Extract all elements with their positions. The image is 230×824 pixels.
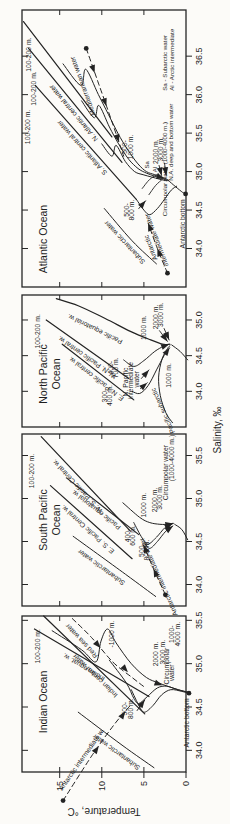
annotation-label: 600 m. [129,525,136,546]
annotation-label: Sa [144,161,150,169]
annotation-label: N.A. deep and bottom water [167,104,174,181]
sal-tick-label: 35.5 [194,124,204,142]
scanned-figure-page: 051015Temperature, °CSalinity, ‰34.034.5… [0,0,230,824]
sal-tick-label: 35.0 [194,163,204,181]
temp-tick-label: 5 [139,781,149,786]
annotation-label: 400 m. [106,385,113,406]
salinity-axis-title: Salinity, ‰ [212,406,223,453]
annotation-label: 800 m. [127,698,134,719]
annotation-label: -1000 m. [108,621,115,648]
temp-tick-label: 0 [181,781,191,786]
sal-tick-label: 35.0 [194,655,204,673]
annotation-label: Al [152,167,158,172]
antarctic-intermediate-origin-dot [61,798,66,803]
annotation-label: 800 m. [128,200,135,221]
antarctic-bottom-dot [187,691,192,696]
panel-title: Ocean [50,358,62,389]
annotation-label: 100-200 m. [28,454,35,488]
panel-title: South Pacific [37,489,49,550]
annotation-label: 3000 m. [157,302,164,327]
sal-tick-label: 34.0 [194,383,204,401]
sal-tick-label: 35.0 [194,490,204,508]
annotation-label: 100-200 m. [34,629,41,663]
sal-tick-label: 35.0 [194,311,204,329]
panel-title: North Pacific [37,344,49,404]
annotation-label: 100-200 m. [34,314,41,348]
annotation-label: (1000-4000 m.) [168,435,176,481]
antarctic-intermediate-origin-dot [165,271,170,276]
ts-diagram-canvas: 051015Temperature, °CSalinity, ‰34.034.5… [0,0,230,824]
antarctic-bottom-dot [183,191,188,196]
annotation-label: 700 m. [112,357,119,378]
annotation-label: 1000 m. [165,363,172,388]
temp-axis-title: Temperature, °C [68,806,141,817]
sal-tick-label: 34.0 [194,742,204,760]
sal-tick-label: 34.5 [194,533,204,551]
annotation-label: water [168,664,175,682]
annotation-label: Al - Arctic intermediate [168,28,175,90]
panel-title: Atlantic Ocean [37,205,49,273]
annotation-label: 1000 m. [140,315,147,340]
annotation-label: Antarctic bottom [179,199,186,248]
sal-tick-label: 35.5 [194,447,204,465]
sal-tick-label: 34.5 [194,201,204,219]
annotation-label: 4000 m. [174,622,181,647]
temp-tick-label: 10 [97,781,107,791]
annotation-label: Antarctic bottom [183,698,190,747]
annotation-label: water [133,370,140,388]
sal-tick-label: 34.0 [194,240,204,258]
annotation-label: 100-200 m. [24,110,31,144]
annotation-label: 1000 m. [140,493,147,518]
sal-tick-label: 34.5 [194,698,204,716]
mediterranean-origin-dot [84,46,89,51]
panel-title: Indian Ocean [37,671,49,734]
annotation-label: 100-200 m. [30,71,37,105]
annotation-label: 100-200 m. [25,37,32,71]
annotation-label: 1000 m. [127,135,134,160]
sal-tick-label: 36.0 [194,86,204,104]
sal-tick-label: 34.5 [194,347,204,365]
ts-diagram-figure: 051015Temperature, °CSalinity, ‰34.034.5… [0,0,230,824]
sal-tick-label: 35.5 [194,612,204,630]
annotation-label: Circumpolar water (1000-4000 m.) [161,122,168,216]
sal-tick-label: 36.5 [194,47,204,65]
sal-tick-label: 34.0 [194,576,204,594]
salinity-axis: Salinity, ‰ [212,406,223,453]
